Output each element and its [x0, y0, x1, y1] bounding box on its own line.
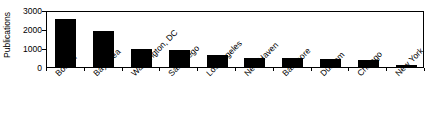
- y-axis-title: Publications: [0, 0, 14, 70]
- y-axis-tick-labels: 0100020003000: [14, 6, 44, 70]
- y-axis-tick-mark: [42, 49, 46, 50]
- x-axis-tick-labels: BostonBay AreaWashington, DCSan DiegoLos…: [46, 71, 432, 140]
- y-axis-title-text: Publications: [2, 12, 12, 58]
- bar-chart: Publications 0100020003000 BostonBay Are…: [0, 0, 432, 140]
- y-axis-tick-label: 2000: [23, 26, 42, 35]
- y-axis-tick-mark: [42, 11, 46, 12]
- y-axis-tick-mark: [42, 30, 46, 31]
- y-axis-tick-label: 0: [37, 64, 42, 73]
- y-axis-tick-label: 3000: [23, 7, 42, 16]
- y-axis-tick-label: 1000: [23, 45, 42, 54]
